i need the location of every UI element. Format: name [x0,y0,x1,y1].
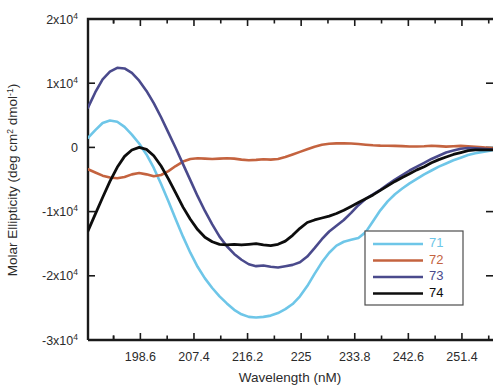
y-tick-label: 0 [71,141,78,155]
x-tick-label: 216.2 [232,350,263,364]
y-tick-label: -3x104 [42,332,78,348]
x-tick-label: 225 [291,350,312,364]
cd-spectrum-chart: 2x1041x1040-1x104-2x104-3x104 198.6207.4… [0,0,493,389]
y-tick-label: 2x104 [46,11,78,27]
x-tick-label: 198.6 [125,350,156,364]
x-tick-label: 251.4 [446,350,477,364]
legend-label-72: 72 [429,252,443,267]
y-tick-label: -1x104 [42,203,78,219]
x-tick-label: 242.6 [393,350,424,364]
y-axis-tick-labels: 2x1041x1040-1x104-2x104-3x104 [42,11,78,348]
legend-label-74: 74 [429,285,443,300]
svg-text:Molar Ellipticity (deg cm2 dmo: Molar Ellipticity (deg cm2 dmol-1) [5,84,20,276]
x-tick-label: 207.4 [178,350,209,364]
legend-label-71: 71 [429,235,443,250]
chart-legend: 71727374 [365,231,463,305]
x-tick-label: 233.8 [339,350,370,364]
x-axis-title: Wavelength (nM) [239,370,341,385]
y-tick-label: 1x104 [46,75,78,91]
y-axis-title: Molar Ellipticity (deg cm2 dmol-1) [5,84,20,276]
x-axis-tick-labels: 198.6207.4216.2225233.8242.6251.4 [125,350,478,364]
y-tick-label: -2x104 [42,267,78,283]
legend-label-73: 73 [429,268,443,283]
chart-canvas: 2x1041x1040-1x104-2x104-3x104 198.6207.4… [0,0,493,389]
